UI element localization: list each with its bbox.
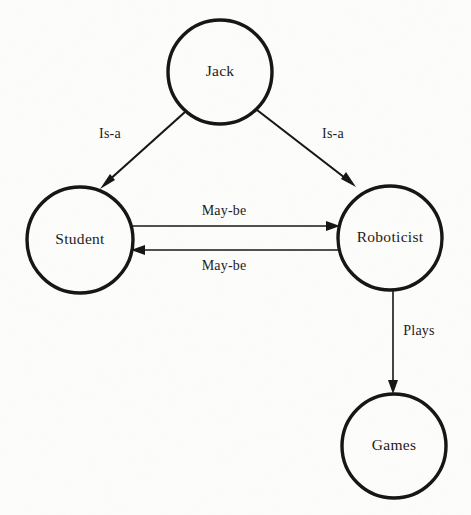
diagram-canvas: Is-a Is-a May-be May-be Plays — [0, 0, 471, 515]
node-label-jack: Jack — [206, 62, 235, 79]
edge-label-may-be-forward: May-be — [202, 203, 247, 218]
arrow-head-roboticist-games — [388, 380, 398, 394]
edge-label-is-a-roboticist: Is-a — [322, 126, 344, 141]
node-student[interactable]: Student — [27, 187, 133, 293]
edge-label-is-a-student: Is-a — [99, 126, 121, 141]
node-label-roboticist: Roboticist — [357, 228, 424, 245]
node-label-student: Student — [55, 230, 105, 247]
node-jack[interactable]: Jack — [168, 20, 272, 124]
edge-line-jack-roboticist — [257, 110, 349, 181]
node-games[interactable]: Games — [342, 394, 446, 498]
edge-jack-roboticist[interactable]: Is-a — [257, 110, 356, 187]
semantic-network-diagram: Is-a Is-a May-be May-be Plays — [0, 0, 471, 515]
edge-jack-student[interactable]: Is-a — [99, 112, 185, 189]
node-roboticist[interactable]: Roboticist — [338, 186, 442, 290]
edge-roboticist-student[interactable]: May-be — [131, 245, 338, 273]
edge-roboticist-games[interactable]: Plays — [388, 289, 435, 394]
edge-line-jack-student — [107, 112, 185, 182]
edge-label-plays: Plays — [403, 323, 434, 338]
edge-label-may-be-reverse: May-be — [202, 258, 247, 273]
node-label-games: Games — [372, 436, 417, 453]
arrow-head-jack-roboticist — [341, 172, 356, 187]
edge-student-roboticist[interactable]: May-be — [132, 203, 340, 231]
